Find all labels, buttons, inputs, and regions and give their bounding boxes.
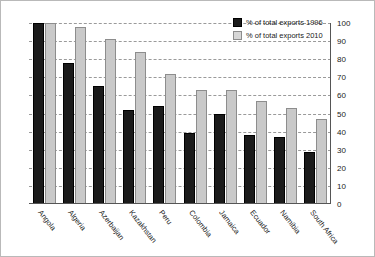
bar <box>105 39 116 204</box>
bar <box>93 86 104 204</box>
legend-swatch-icon <box>233 18 242 27</box>
y-tick-label-40: 40 <box>337 127 346 136</box>
bar <box>45 23 56 204</box>
x-axis-label: Jamaica <box>218 208 242 236</box>
bar <box>184 133 195 204</box>
x-axis-label: South Africa <box>308 208 340 245</box>
y-tick-label-80: 80 <box>337 55 346 64</box>
bar <box>304 152 315 204</box>
x-label-slot: Ecuador <box>240 206 270 256</box>
bar <box>256 101 267 204</box>
chart-figure: 1009080706050403020100 AngolaAlgeriaAzer… <box>0 0 375 257</box>
bar <box>165 74 176 204</box>
y-tick-label-50: 50 <box>337 109 346 118</box>
bar-group <box>59 23 89 204</box>
x-label-slot: Kazakhstan <box>120 206 150 256</box>
legend-item: % of total exports 1996 <box>233 18 323 27</box>
chart-legend: % of total exports 1996% of total export… <box>233 18 323 40</box>
y-tick-label-70: 70 <box>337 73 346 82</box>
bar-group <box>271 23 301 204</box>
bar <box>153 106 164 204</box>
bar <box>196 90 207 204</box>
y-axis-line <box>330 23 331 204</box>
x-label-slot: Colombia <box>180 206 210 256</box>
x-axis-category-labels: AngolaAlgeriaAzerbaijanKazakhstanPeruCol… <box>29 206 331 256</box>
x-label-slot: Algeria <box>59 206 89 256</box>
bar-group <box>29 23 59 204</box>
x-axis-label: Angola <box>36 208 57 232</box>
x-label-slot: Namibia <box>271 206 301 256</box>
bar <box>244 135 255 204</box>
x-axis-line <box>29 203 331 204</box>
y-tick-label-10: 10 <box>337 181 346 190</box>
y-tick-label-90: 90 <box>337 37 346 46</box>
x-axis-label: Peru <box>157 208 174 226</box>
bar-group <box>240 23 270 204</box>
bar-group <box>120 23 150 204</box>
bar <box>214 114 225 205</box>
bar <box>274 137 285 204</box>
legend-swatch-icon <box>233 31 242 40</box>
y-tick-label-30: 30 <box>337 145 346 154</box>
bar <box>75 27 86 204</box>
x-axis-label: Algeria <box>67 208 88 232</box>
bar <box>123 110 134 204</box>
bar <box>63 63 74 204</box>
bar-groups <box>29 23 331 204</box>
x-label-slot: Angola <box>29 206 59 256</box>
x-label-slot: South Africa <box>301 206 331 256</box>
legend-item: % of total exports 2010 <box>233 31 323 40</box>
bar <box>226 90 237 204</box>
bar-group <box>89 23 119 204</box>
bar-group <box>210 23 240 204</box>
bar <box>316 119 327 204</box>
legend-label: % of total exports 1996 <box>246 18 323 27</box>
x-label-slot: Peru <box>150 206 180 256</box>
bar <box>33 23 44 204</box>
bar-group <box>150 23 180 204</box>
y-tick-label-100: 100 <box>337 19 350 28</box>
y-tick-label-0: 0 <box>337 200 341 209</box>
y-tick-label-60: 60 <box>337 91 346 100</box>
x-axis-label: Ecuador <box>248 208 272 236</box>
y-tick-label-20: 20 <box>337 163 346 172</box>
bar-group <box>180 23 210 204</box>
legend-label: % of total exports 2010 <box>246 31 323 40</box>
bar <box>286 108 297 204</box>
bar <box>135 52 146 204</box>
x-axis-label: Namibia <box>278 208 302 235</box>
x-label-slot: Azerbaijan <box>89 206 119 256</box>
bar-group <box>301 23 331 204</box>
plot-area <box>29 23 331 204</box>
x-label-slot: Jamaica <box>210 206 240 256</box>
